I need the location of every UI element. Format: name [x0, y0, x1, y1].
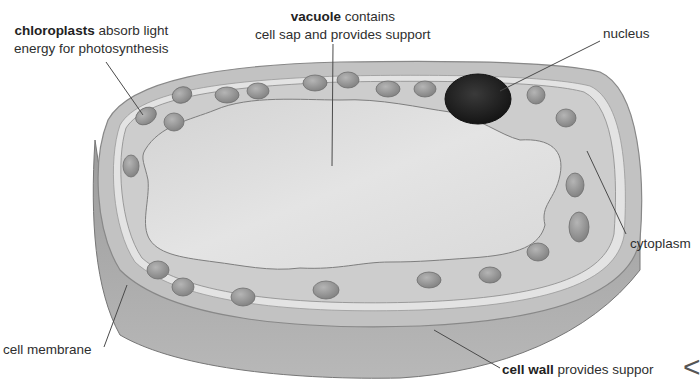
vacuole-desc-1: contains: [341, 9, 395, 24]
chloroplasts-desc-2: energy for photosynthesis: [14, 40, 169, 58]
chloroplasts-desc-1: absorb light: [95, 23, 169, 38]
vacuole-desc-2: cell sap and provides support: [255, 26, 431, 44]
vacuole-term: vacuole: [291, 9, 341, 24]
nucleus: [445, 74, 511, 124]
label-cell-membrane: cell membrane: [3, 341, 92, 359]
label-nucleus: nucleus: [603, 25, 650, 43]
chevron-left-icon: <: [683, 352, 700, 382]
cell-illustration: [0, 0, 700, 391]
label-cell-wall: cell wall provides suppor: [502, 361, 654, 379]
label-vacuole: vacuole contains cell sap and provides s…: [255, 8, 431, 44]
cell-wall-desc: provides suppor: [554, 362, 654, 377]
cell-wall-term: cell wall: [502, 362, 554, 377]
chloroplasts-term: chloroplasts: [14, 23, 94, 38]
label-cytoplasm: cytoplasm: [630, 235, 691, 253]
plant-cell-diagram: chloroplasts absorb light energy for pho…: [0, 0, 700, 391]
label-chloroplasts: chloroplasts absorb light energy for pho…: [14, 22, 169, 58]
